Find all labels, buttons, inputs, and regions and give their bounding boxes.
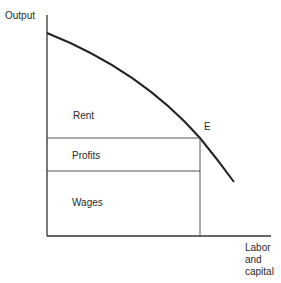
- wages-label: Wages: [72, 197, 103, 209]
- rent-label: Rent: [73, 110, 94, 122]
- x-axis-label-line-3: capital: [245, 266, 274, 278]
- x-axis-label-line-2: and: [245, 254, 262, 266]
- output-distribution-diagram: Output Rent Profits Wages E Labor and ca…: [0, 0, 281, 283]
- diagram-canvas: [0, 0, 281, 283]
- y-axis-label: Output: [5, 10, 35, 22]
- x-axis-label-line-1: Labor: [245, 242, 271, 254]
- point-e-label: E: [204, 121, 211, 133]
- profits-label: Profits: [72, 150, 100, 162]
